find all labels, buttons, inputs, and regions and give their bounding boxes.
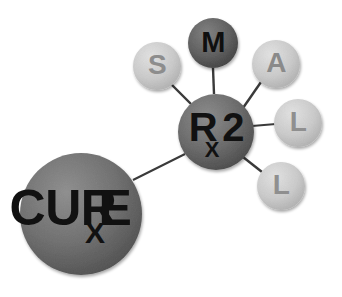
node-a[interactable]: A — [252, 40, 300, 88]
rx2-node-label-sub: X — [205, 137, 220, 162]
edge-rx2-m — [213, 68, 214, 94]
node-a-label: A — [266, 47, 286, 78]
node-l-upper-label: L — [290, 106, 307, 137]
node-s[interactable]: S — [133, 42, 181, 90]
node-l-upper[interactable]: L — [274, 99, 322, 147]
edge-rx2-l-upper — [252, 124, 276, 126]
cure-node-label-tail: E — [99, 180, 132, 236]
rx2-node[interactable]: R X 2 — [178, 94, 254, 170]
diagram-canvas: S M A L L R X — [0, 0, 342, 297]
edge-rx2-s — [172, 85, 191, 104]
node-l-lower[interactable]: L — [257, 162, 305, 210]
rx2-node-label-tail: 2 — [222, 105, 244, 149]
cure-node[interactable]: CUR X E — [10, 153, 142, 275]
node-s-label: S — [148, 49, 166, 80]
edge-rx2-a — [243, 82, 261, 108]
edge-cure-rx2 — [133, 154, 185, 180]
node-l-lower-label: L — [273, 169, 290, 200]
node-link-diagram: S M A L L R X — [0, 0, 342, 297]
edge-rx2-l-lower — [243, 157, 262, 172]
node-m-label: M — [201, 26, 225, 58]
node-m[interactable]: M — [188, 18, 238, 68]
